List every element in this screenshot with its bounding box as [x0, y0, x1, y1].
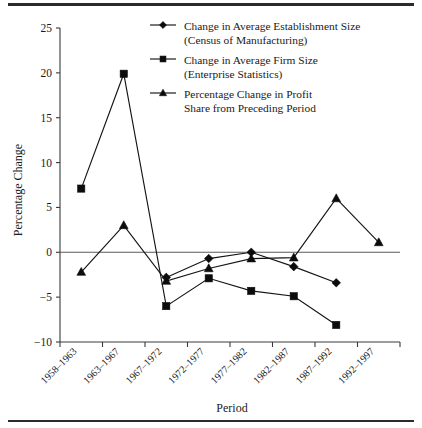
- y-tick-label: 5: [46, 201, 52, 213]
- legend-entry-square: Change in Average Firm Size(Enterprise S…: [150, 54, 318, 82]
- series-triangle: [77, 194, 383, 284]
- y-axis-ticks: −10−50510152025: [34, 22, 60, 348]
- x-tick-label: 1982–1987: [251, 346, 291, 386]
- legend-label-line1: Change in Average Establishment Size: [184, 20, 360, 32]
- x-tick-label: 1958–1963: [38, 346, 78, 386]
- chart-legend: Change in Average Establishment Size(Cen…: [150, 20, 360, 115]
- chart-container: −10−50510152025 1958–19631963–19671967–1…: [0, 0, 422, 428]
- x-tick-label: 1963–1967: [81, 346, 121, 386]
- data-point-square: [205, 275, 212, 282]
- data-point-triangle: [247, 254, 256, 262]
- x-tick-label: 1992–1997: [336, 346, 376, 386]
- legend-entry-triangle: Percentage Change in ProfitShare from Pr…: [150, 88, 316, 115]
- data-point-diamond: [332, 278, 341, 287]
- legend-label-line1: Change in Average Firm Size: [184, 54, 318, 66]
- data-point-square: [248, 287, 255, 294]
- data-point-square: [290, 293, 297, 300]
- data-point-square: [163, 303, 170, 310]
- legend-entry-diamond: Change in Average Establishment Size(Cen…: [150, 20, 360, 48]
- x-tick-label: 1967–1972: [123, 346, 163, 386]
- data-point-diamond: [159, 21, 166, 28]
- y-tick-label: 25: [41, 22, 53, 34]
- y-tick-label: −5: [40, 291, 52, 303]
- line-chart: −10−50510152025 1958–19631963–19671967–1…: [0, 0, 422, 428]
- y-axis-title: Percentage Change: [11, 144, 25, 236]
- x-tick-label: 1987–1992: [293, 346, 333, 386]
- data-point-diamond: [204, 254, 213, 263]
- data-point-triangle: [332, 194, 341, 202]
- data-point-square: [78, 185, 85, 192]
- y-tick-label: −10: [34, 336, 52, 348]
- legend-label-line2: Share from Preceding Period: [184, 102, 316, 114]
- y-tick-label: 0: [46, 246, 52, 258]
- y-tick-label: 15: [41, 112, 53, 124]
- x-tick-label: 1977–1982: [208, 346, 248, 386]
- data-point-triangle: [119, 221, 128, 229]
- y-tick-label: 10: [41, 157, 53, 169]
- y-tick-label: 20: [41, 67, 53, 79]
- x-axis-title: Period: [216, 401, 247, 415]
- legend-label-line2: (Enterprise Statistics): [184, 68, 283, 81]
- data-point-square: [333, 321, 340, 328]
- x-tick-label: 1972–1977: [166, 346, 206, 386]
- data-point-square: [160, 56, 166, 62]
- legend-label-line2: (Census of Manufacturing): [184, 34, 308, 47]
- data-point-diamond: [289, 262, 298, 271]
- series-line-triangle: [81, 198, 379, 281]
- data-point-square: [120, 70, 127, 77]
- legend-label-line1: Percentage Change in Profit: [184, 88, 313, 100]
- x-tick-labels: 1958–19631963–19671967–19721972–19771977…: [38, 346, 376, 386]
- x-axis-ticks: [60, 342, 400, 347]
